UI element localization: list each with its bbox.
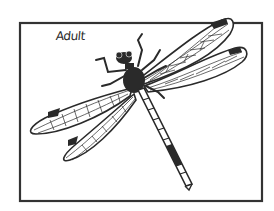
dragonfly-figure: Adult	[0, 0, 274, 211]
abdomen	[138, 88, 192, 190]
dragonfly-drawing	[0, 0, 274, 211]
figure-label: Adult	[55, 29, 85, 43]
